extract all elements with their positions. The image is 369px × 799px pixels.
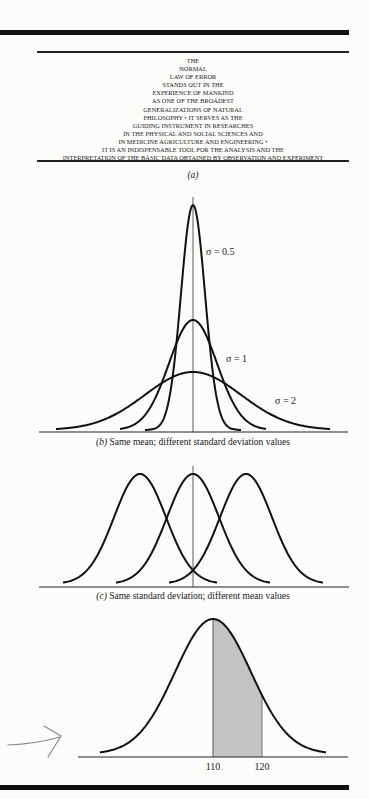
chart-d-shaded-area: 110 120 <box>78 619 348 772</box>
hand-drawn-arrow-icon <box>8 726 61 757</box>
label-sigma-2: σ = 2 <box>275 395 296 406</box>
caption-b: (b) Same mean; different standard deviat… <box>0 437 369 447</box>
label-sigma-1: σ = 1 <box>226 353 247 364</box>
curve-mean-left <box>63 474 217 583</box>
figures-canvas: σ = 0.5 σ = 1 σ = 2 110 120 <box>0 0 369 799</box>
caption-c-text: Same standard deviation; different mean … <box>107 591 290 601</box>
caption-b-text: Same mean; different standard deviation … <box>107 437 290 447</box>
caption-b-tag: (b) <box>96 437 107 447</box>
caption-c: (c) Same standard deviation; different m… <box>0 591 369 601</box>
label-sigma-0.5: σ = 0.5 <box>206 246 235 257</box>
curve-mean-right <box>169 474 323 583</box>
caption-c-tag: (c) <box>96 591 107 601</box>
tick-label-120: 120 <box>255 761 270 772</box>
chart-c-same-sd <box>39 466 349 587</box>
bottom-thick-rule <box>0 785 349 790</box>
shaded-region-110-120 <box>213 619 262 757</box>
chart-b-same-mean: σ = 0.5 σ = 1 σ = 2 <box>39 197 348 432</box>
tick-label-110: 110 <box>206 761 221 772</box>
